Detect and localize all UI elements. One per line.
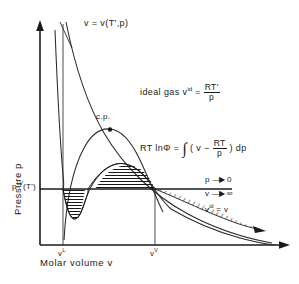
limit-volume-note: v —▶ ∞ [205, 190, 233, 198]
limit-pressure-note: p —▶ 0 [205, 176, 232, 184]
fugacity-phi-symbol: Φ [163, 143, 171, 153]
critical-point-label: c.p. [96, 113, 111, 121]
fugacity-open-paren: ( v − [190, 143, 210, 153]
x-tick-label-vl: vL [58, 248, 65, 258]
ideal-gas-equals: = [195, 87, 201, 97]
x-axis [40, 241, 290, 249]
fugacity-close-paren: ) dp [230, 143, 247, 153]
limit-p-arrow: —▶ [212, 175, 224, 184]
fugacity-prefix: RT ln [140, 143, 163, 153]
limit-v-value: ∞ [227, 189, 233, 198]
limit-p-symbol: p [205, 175, 210, 184]
limit-id-superscript: id [209, 203, 213, 209]
limit-p-value: 0 [227, 175, 232, 184]
limit-v-symbol: v [205, 189, 209, 198]
fugacity-fraction: RT p [213, 139, 227, 157]
x-tick-vl-superscript: L [62, 247, 65, 253]
y-tick-label-saturation-pressure: pLV(T') [12, 181, 36, 191]
y-tick-p-argument: (T') [23, 182, 36, 191]
pv-diagram-figure: Pressure p Molar volume v v = v(T',p) c.… [0, 0, 299, 284]
ideal-gas-fraction: RT' p [204, 83, 220, 101]
ideal-gas-equation: ideal gas vid = RT' p [140, 84, 220, 102]
ideal-gas-superscript: id [187, 85, 192, 92]
area-tip-arrow [253, 226, 266, 233]
fugacity-denominator: p [213, 149, 227, 158]
ideal-gas-prefix: ideal gas v [140, 87, 187, 97]
x-tick-label-vv: vV [150, 248, 158, 258]
ideal-gas-denominator: p [204, 93, 220, 102]
isotherm-label-leader [60, 22, 72, 48]
limit-ideal-equals-real-note: vid = v [205, 204, 228, 214]
x-axis-title: Molar volume v [40, 258, 113, 268]
fugacity-equation: RT lnΦ = ∫ ( v − RT p ) dp [140, 140, 247, 158]
limit-v-arrow: —▶ [212, 189, 224, 198]
real-isotherm-curve [55, 30, 275, 245]
integral-sign: ∫ [182, 140, 187, 157]
isotherm-label: v = v(T',p) [84, 19, 128, 28]
maxwell-upper-lobe [88, 160, 162, 192]
y-axis [36, 20, 44, 245]
fugacity-equals: = [174, 143, 180, 153]
limit-id-rest: = v [216, 205, 228, 214]
x-tick-vv-superscript: V [154, 247, 158, 253]
critical-point-marker [108, 127, 112, 131]
